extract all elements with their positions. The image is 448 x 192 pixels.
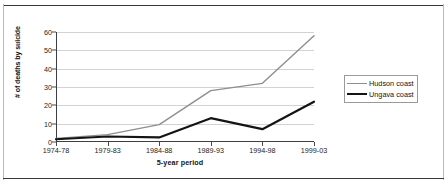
legend-item-ungava-coast: Ungava coast [347,89,414,100]
x-tick-label: 1974-78 [43,146,69,155]
legend-item-hudson-coast: Hudson coast [347,78,414,89]
legend-label: Hudson coast [369,79,414,88]
y-tick-label: 60 [44,28,52,37]
legend-label: Ungava coast [369,90,414,99]
bottom-horizontal-rule [3,178,444,179]
y-tick-label: 50 [44,46,52,55]
x-tick-label: 1994-98 [249,146,275,155]
chart-legend: Hudson coastUngava coast [344,75,418,103]
legend-line-swatch-icon [347,83,367,85]
x-tick-label: 1984-88 [146,146,172,155]
y-tick-label: 40 [44,64,52,73]
series-lines [56,32,314,142]
y-axis-title: # of deaths by suicide [14,10,22,114]
y-tick-label: 20 [44,101,52,110]
line-chart: # of deaths by suicide 0102030405060 197… [0,6,448,176]
x-tick-label: 1999-03 [301,146,327,155]
x-tick-label: 1979-83 [94,146,120,155]
legend-line-swatch-icon [347,93,367,96]
y-tick-label: 30 [44,83,52,92]
y-tick-label: 10 [44,119,52,128]
plot-area: 0102030405060 1974-781979-831984-881989-… [56,32,314,142]
x-axis-title: 5-year period [46,158,314,167]
x-tick-label: 1989-93 [198,146,224,155]
